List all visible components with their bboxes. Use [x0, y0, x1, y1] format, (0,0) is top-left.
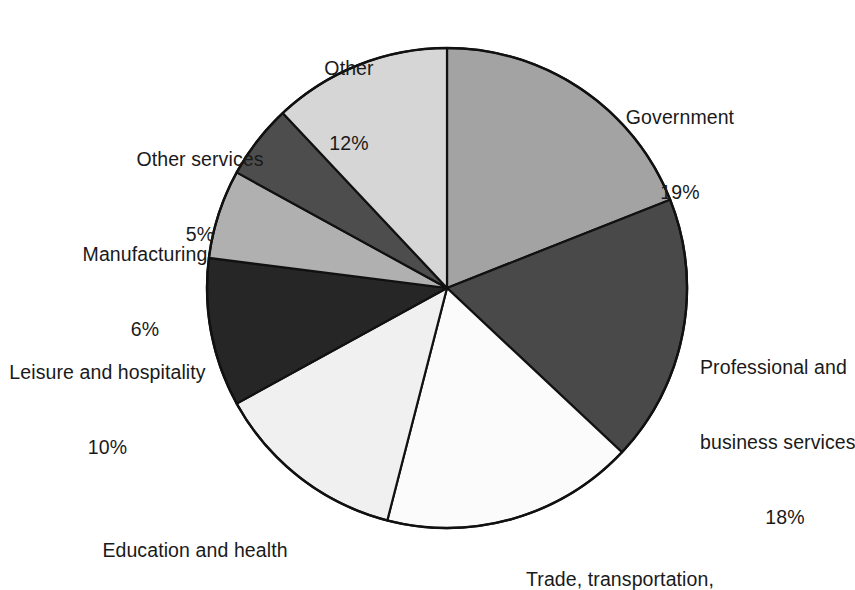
pie-label-other-services-value: 5%	[110, 222, 290, 247]
pie-label-other-services-name: Other services	[110, 147, 290, 172]
pie-label-professional-name-line2: business services	[700, 430, 855, 455]
pie-label-education-name-line1: Education and health	[75, 538, 315, 563]
pie-label-trade: Trade, transportation, and utilities 17%	[500, 517, 740, 590]
pie-label-leisure-value: 10%	[0, 435, 215, 460]
pie-label-government-value: 19%	[560, 180, 800, 205]
pie-label-other-name: Other	[259, 56, 439, 81]
pie-label-government-name: Government	[560, 105, 800, 130]
pie-label-trade-name-line1: Trade, transportation,	[500, 567, 740, 590]
pie-label-professional-name-line1: Professional and	[700, 355, 855, 380]
pie-chart: Other 12% Government 19% Professional an…	[0, 0, 855, 590]
pie-label-government: Government 19%	[560, 55, 800, 255]
pie-label-manufacturing-value: 6%	[60, 317, 230, 342]
pie-label-other-services: Other services 5%	[110, 97, 290, 297]
